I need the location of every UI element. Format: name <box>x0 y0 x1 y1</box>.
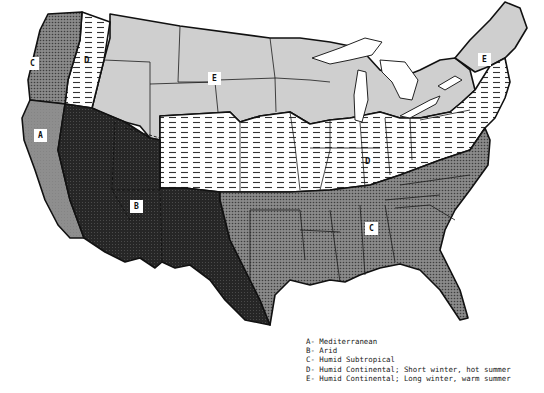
zone-label-c-northwest: C <box>26 57 39 70</box>
zone-label-d-northwest: D <box>84 55 89 65</box>
zone-label-c-southeast: C <box>365 222 378 235</box>
zone-label-d-midwest: D <box>365 156 370 166</box>
legend-item-a: A- Mediterranean <box>306 337 511 346</box>
legend-item-b: B- Arid <box>306 346 511 355</box>
zone-label-b: B <box>130 200 143 213</box>
zone-label-e-new-england: E <box>478 53 491 66</box>
legend-item-e: E- Humid Continental; Long winter, warm … <box>306 374 511 383</box>
legend-item-d: D- Humid Continental; Short winter, hot … <box>306 365 511 374</box>
map-legend: A- Mediterranean B- Arid C- Humid Subtro… <box>306 337 511 383</box>
zone-label-a: A <box>34 129 47 142</box>
legend-item-c: C- Humid Subtropical <box>306 355 511 364</box>
climate-map <box>0 0 544 393</box>
zone-label-e-plains: E <box>208 72 221 85</box>
zone-e-new-england <box>455 2 527 72</box>
